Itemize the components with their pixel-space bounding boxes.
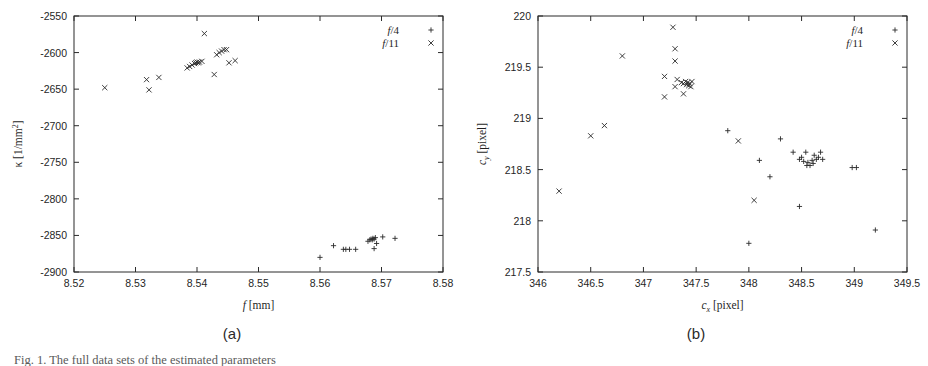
legend-label-f4: f/4	[387, 24, 399, 36]
x-tick-label: 8.57	[371, 277, 392, 289]
x-tick-label: 348	[740, 277, 758, 289]
y-axis-title-group: κ [1/mm2]	[11, 120, 24, 167]
y-tick-label: -2850	[40, 229, 67, 241]
figure-container: 8.528.538.548.558.568.578.58-2900-2850-2…	[0, 0, 928, 366]
y-tick-label: 219.5	[505, 61, 531, 73]
legend-plus-marker	[892, 27, 897, 32]
legend-cross-marker	[428, 40, 433, 45]
x-tick-label: 349.5	[894, 277, 920, 289]
figure-caption-fragment: Fig. 1. The full data sets of the estima…	[14, 353, 514, 366]
scatter-panel-a: 8.528.538.548.558.568.578.58-2900-2850-2…	[0, 0, 464, 366]
y-tick-label: -2650	[40, 83, 67, 95]
y-tick-label: 218.5	[505, 164, 531, 176]
y-tick-label: 217.5	[505, 266, 531, 278]
x-tick-label: 8.56	[310, 277, 331, 289]
y-axis-title: κ [1/mm2]	[11, 120, 24, 167]
legend-label-f11: f/11	[382, 37, 399, 49]
y-tick-label: 218	[513, 215, 531, 227]
x-tick-label: 8.54	[187, 277, 208, 289]
y-tick-label: -2800	[40, 193, 67, 205]
legend-plus-marker	[428, 27, 433, 32]
legend-label-f11: f/11	[846, 37, 863, 49]
y-tick-label: -2600	[40, 47, 67, 59]
plot-area-b: 346346.5347347.5348348.5349349.5217.5218…	[464, 0, 928, 366]
y-tick-label: 219	[513, 112, 531, 124]
scatter-panel-b: 346346.5347347.5348348.5349349.5217.5218…	[464, 0, 928, 366]
y-tick-label: -2900	[40, 266, 67, 278]
plot-frame	[538, 16, 907, 272]
y-axis-title-group: cy [pixel]	[476, 123, 491, 165]
subplot-label-b: (b)	[464, 325, 928, 342]
legend-cross-marker	[892, 40, 897, 45]
y-tick-label: -2750	[40, 156, 67, 168]
y-tick-label: 220	[513, 10, 531, 22]
series-f-4	[317, 234, 397, 260]
legend-label-f4: f/4	[851, 24, 863, 36]
x-tick-label: 347	[635, 277, 653, 289]
x-axis-title: f [mm]	[243, 299, 275, 312]
series-f-11	[102, 31, 238, 93]
x-tick-label: 8.52	[64, 277, 85, 289]
subplot-label-a: (a)	[0, 325, 464, 342]
x-axis-title: cx [pixel]	[701, 299, 743, 314]
x-tick-label: 348.5	[788, 277, 814, 289]
x-tick-label: 8.58	[433, 277, 454, 289]
series-f-11	[556, 25, 756, 203]
y-tick-label: -2550	[40, 10, 67, 22]
x-tick-label: 347.5	[683, 277, 709, 289]
x-tick-label: 346.5	[578, 277, 604, 289]
plot-area-a: 8.528.538.548.558.568.578.58-2900-2850-2…	[0, 0, 464, 366]
y-tick-label: -2700	[40, 120, 67, 132]
plot-frame	[74, 16, 443, 272]
y-axis-title: cy [pixel]	[476, 123, 491, 165]
x-tick-label: 8.55	[248, 277, 269, 289]
x-tick-label: 8.53	[125, 277, 146, 289]
x-tick-label: 349	[846, 277, 864, 289]
x-tick-label: 346	[529, 277, 547, 289]
series-f-4	[725, 128, 878, 246]
